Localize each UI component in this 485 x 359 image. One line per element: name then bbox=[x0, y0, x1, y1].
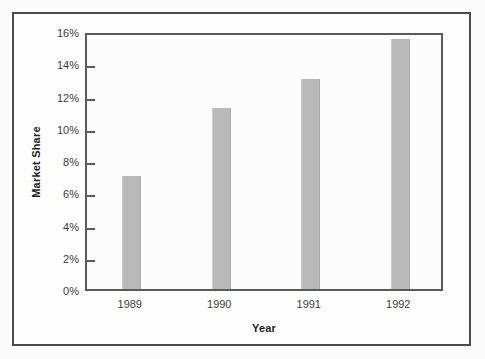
x-axis-tick-label: 1991 bbox=[297, 298, 321, 310]
y-axis-title: Market Share bbox=[30, 33, 44, 291]
bar-1990 bbox=[212, 108, 231, 289]
x-axis-tick-labels: 1989199019911992 bbox=[85, 298, 443, 316]
x-axis-tick-label: 1990 bbox=[207, 298, 231, 310]
plot-area bbox=[85, 33, 443, 291]
bar-1992 bbox=[391, 39, 410, 289]
x-axis-tick-label: 1992 bbox=[386, 298, 410, 310]
bar-1989 bbox=[122, 176, 141, 289]
bars-layer bbox=[87, 35, 441, 289]
bar-1991 bbox=[301, 79, 320, 289]
x-axis-title: Year bbox=[85, 322, 443, 334]
x-axis-tick-label: 1989 bbox=[118, 298, 142, 310]
chart-figure: 0%2%4%6%8%10%12%14%16% 1989199019911992 … bbox=[0, 0, 485, 359]
